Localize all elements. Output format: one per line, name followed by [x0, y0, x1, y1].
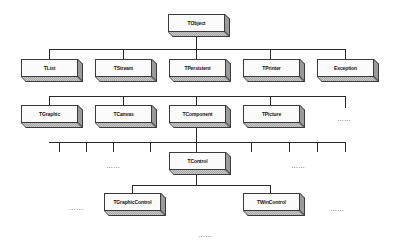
connector-level3-tick-1: [59, 142, 60, 152]
connector-level3-bus: [49, 142, 346, 143]
node-tstream: TStream: [95, 59, 152, 77]
connector-level2-drop-5: [345, 96, 346, 108]
node-label: TPicture: [243, 105, 300, 123]
node-tpicture: TPicture: [243, 105, 300, 123]
connector-level2-bus: [49, 96, 346, 97]
connector-level4-bus: [132, 185, 271, 186]
node-bottom-face: [168, 32, 230, 37]
ellipsis-level2-more: ……: [337, 115, 351, 122]
connector-level2-drop-2: [123, 96, 124, 105]
connector-level3-tick-5: [251, 142, 252, 152]
connector-level1-bus: [49, 49, 346, 50]
connector-root-stem: [196, 37, 197, 49]
node-bottom-face: [21, 123, 83, 128]
node-tgraphic: TGraphic: [21, 105, 78, 123]
node-bottom-face: [169, 123, 231, 128]
class-hierarchy-diagram: TObject TList TStream TPersistent TPrint…: [0, 0, 397, 247]
node-label: TPrinter: [243, 59, 300, 77]
connector-level1-drop-4: [270, 49, 271, 59]
node-tgraphiccontrol: TGraphicControl: [104, 193, 161, 211]
node-bottom-face: [21, 77, 83, 82]
node-label: TObject: [168, 14, 225, 32]
node-twincontrol: TWinControl: [243, 193, 300, 211]
node-tcontrol: TControl: [169, 152, 226, 170]
connector-level3-tick-3: [113, 142, 114, 152]
node-label: TPersistent: [169, 59, 226, 77]
connector-level4-drop-1: [132, 185, 133, 193]
connector-level2-drop-1: [49, 96, 50, 105]
node-bottom-face: [95, 77, 157, 82]
node-label: TCanvas: [95, 105, 152, 123]
node-bottom-face: [243, 211, 305, 216]
node-bottom-face: [317, 77, 379, 82]
node-label: TList: [21, 59, 78, 77]
node-bottom-face: [169, 170, 231, 175]
connector-level2-drop-4: [270, 96, 271, 105]
node-tobject: TObject: [168, 14, 225, 32]
connector-level2-drop-3: [196, 96, 197, 105]
node-tcanvas: TCanvas: [95, 105, 152, 123]
connector-level3-tick-2: [86, 142, 87, 152]
node-tlist: TList: [21, 59, 78, 77]
node-bottom-face: [169, 77, 231, 82]
ellipsis-level3-left: ……: [106, 162, 120, 169]
connector-level1-drop-1: [49, 49, 50, 59]
node-bottom-face: [95, 123, 157, 128]
connector-level3-tick-4: [150, 142, 151, 152]
node-bottom-face: [243, 77, 305, 82]
connector-level4-drop-2: [270, 185, 271, 193]
connector-level1-drop-5: [345, 49, 346, 59]
connector-level1-drop-3: [196, 49, 197, 59]
node-label: TComponent: [169, 105, 226, 123]
node-label: TStream: [95, 59, 152, 77]
ellipsis-level3-right: ……: [291, 162, 305, 169]
node-label: Exception: [317, 59, 374, 77]
ellipsis-level4-right: ……: [330, 205, 344, 212]
node-label: TGraphic: [21, 105, 78, 123]
connector-level3-tick-6: [289, 142, 290, 152]
node-tprinter: TPrinter: [243, 59, 300, 77]
node-exception: Exception: [317, 59, 374, 77]
node-label: TControl: [169, 152, 226, 170]
ellipsis-level4-left: ……: [69, 204, 83, 211]
connector-control-stem: [196, 175, 197, 185]
ellipsis-level5: ……: [198, 231, 212, 238]
connector-level3-tick-7: [317, 142, 318, 152]
node-label: TWinControl: [243, 193, 300, 211]
node-tcomponent: TComponent: [169, 105, 226, 123]
node-tpersistent: TPersistent: [169, 59, 226, 77]
connector-level3-tick-8: [345, 142, 346, 152]
node-label: TGraphicControl: [104, 193, 161, 211]
connector-level1-drop-2: [123, 49, 124, 59]
node-bottom-face: [104, 211, 166, 216]
node-bottom-face: [243, 123, 305, 128]
connector-component-stem: [196, 128, 197, 152]
